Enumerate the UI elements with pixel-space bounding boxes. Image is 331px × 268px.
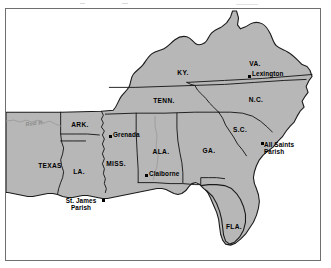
landmass-group <box>6 11 312 245</box>
map-drawing <box>6 9 320 260</box>
scan-artifact-top-left <box>80 3 85 4</box>
city-dot-st-james-parish <box>102 199 105 202</box>
map-frame: TEXAS ARK. LA. MISS. ALA. TENN. KY. VA. … <box>5 8 321 261</box>
city-dot-lexington <box>248 75 251 78</box>
scan-artifact-top-right <box>236 4 258 5</box>
landmass-fill <box>6 11 312 245</box>
city-dot-all-saints-parish <box>261 142 264 145</box>
city-dot-grenada <box>109 135 112 138</box>
scan-artifact-top-mid <box>122 3 128 4</box>
city-dot-claiborne <box>145 174 148 177</box>
map-figure: TEXAS ARK. LA. MISS. ALA. TENN. KY. VA. … <box>0 0 331 268</box>
